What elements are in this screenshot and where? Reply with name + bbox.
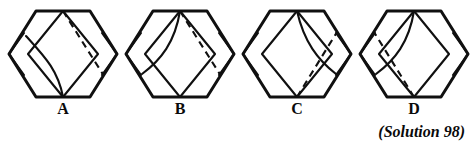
figures-row: A B C — [0, 0, 473, 145]
figure-c-label: C — [238, 100, 356, 118]
figure-d-label: D — [355, 100, 473, 118]
figure-b-label: B — [121, 100, 239, 118]
figure-d-drawing — [355, 4, 473, 104]
central-diamond — [145, 11, 215, 97]
hexagon-outline — [243, 11, 351, 97]
hexagon-outline — [9, 11, 117, 97]
central-diamond — [379, 11, 449, 97]
central-diamond — [262, 11, 332, 97]
figure-a-label: A — [4, 100, 122, 118]
figure-c: C — [238, 4, 356, 126]
hexagon-outline — [360, 11, 468, 97]
figure-a: A — [4, 4, 122, 126]
figure-a-drawing — [4, 4, 122, 104]
central-diamond — [28, 11, 98, 97]
figure-b: B — [121, 4, 239, 126]
figure-b-drawing — [121, 4, 239, 104]
solution-caption: (Solution 98) — [378, 123, 465, 141]
hexagon-outline — [126, 11, 234, 97]
figure-c-drawing — [238, 4, 356, 104]
figure-d: D — [355, 4, 473, 126]
